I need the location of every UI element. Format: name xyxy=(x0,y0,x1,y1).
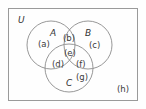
region-label-d: (d) xyxy=(52,60,64,69)
region-label-b: (b) xyxy=(63,34,75,43)
region-label-h: (h) xyxy=(117,85,129,94)
universe-label: U xyxy=(18,16,25,25)
set-c-label: C xyxy=(66,79,72,88)
venn-diagram: U A B C (a) (b) (c) (d) (e) (f) (g) (h) xyxy=(0,0,146,109)
region-label-c: (c) xyxy=(89,41,100,50)
region-label-g: (g) xyxy=(76,73,88,82)
region-label-e: (e) xyxy=(64,49,76,58)
region-label-f: (f) xyxy=(76,60,86,69)
set-b-label: B xyxy=(85,29,91,38)
set-a-label: A xyxy=(50,29,56,38)
region-label-a: (a) xyxy=(38,40,50,49)
